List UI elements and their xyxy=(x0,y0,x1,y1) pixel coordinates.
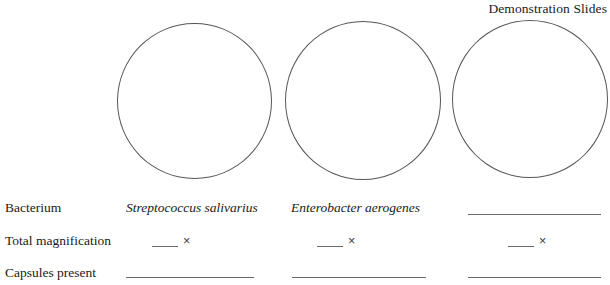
field-of-view-circle-1[interactable] xyxy=(117,23,272,179)
page-title: Demonstration Slides xyxy=(488,1,607,17)
capsules-present-blank-2[interactable] xyxy=(292,277,426,278)
field-of-view-circle-2[interactable] xyxy=(285,21,441,180)
multiplication-sign-icon-2: × xyxy=(348,233,355,249)
total-magnification-cell-3[interactable]: × xyxy=(508,233,546,251)
clipped-top-text xyxy=(96,0,216,1)
bacterium-name-1: Streptococcus salivarius xyxy=(126,200,258,216)
multiplication-sign-icon-1: × xyxy=(183,233,190,249)
row-label-bacterium: Bacterium xyxy=(5,200,61,216)
total-magnification-cell-2[interactable]: × xyxy=(317,233,355,251)
total-magnification-cell-1[interactable]: × xyxy=(152,233,190,251)
multiplication-sign-icon-3: × xyxy=(539,233,546,249)
bacterium-name-2: Enterobacter aerogenes xyxy=(291,200,420,216)
bacterium-blank-3[interactable] xyxy=(468,214,601,215)
field-of-view-circle-3[interactable] xyxy=(452,20,608,178)
total-magnification-blank-1[interactable] xyxy=(152,234,178,247)
total-magnification-blank-3[interactable] xyxy=(508,234,534,247)
worksheet-sheet: Demonstration Slides Bacterium Total mag… xyxy=(0,0,610,285)
capsules-present-blank-3[interactable] xyxy=(468,277,601,278)
row-label-capsules-present: Capsules present xyxy=(5,265,96,281)
row-label-total-magnification: Total magnification xyxy=(5,233,111,249)
total-magnification-blank-2[interactable] xyxy=(317,234,343,247)
capsules-present-blank-1[interactable] xyxy=(126,277,254,278)
